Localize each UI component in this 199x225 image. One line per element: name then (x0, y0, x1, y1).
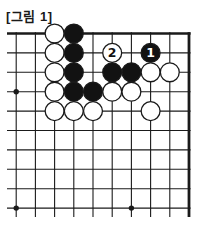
star-point (129, 205, 134, 210)
stone-white (45, 43, 64, 62)
go-figure-page: [그림 1] 21 (0, 0, 199, 225)
stone-white (84, 102, 103, 121)
stone-white (141, 102, 160, 121)
move-number-1: 1 (146, 45, 155, 60)
star-point (14, 205, 19, 210)
stone-white (45, 24, 64, 43)
stone-white (64, 102, 83, 121)
stone-black (122, 63, 141, 82)
stone-white (103, 82, 122, 101)
stone-black (84, 82, 103, 101)
stone-black (64, 43, 83, 62)
go-board: 21 (0, 0, 199, 225)
stone-black (64, 63, 83, 82)
stone-white (45, 82, 64, 101)
star-point (14, 89, 19, 94)
stone-black (103, 63, 122, 82)
stone-white (45, 102, 64, 121)
stone-white (141, 63, 160, 82)
stone-black (64, 24, 83, 43)
stone-white (160, 63, 179, 82)
stone-white (45, 63, 64, 82)
move-number-2: 2 (108, 45, 117, 60)
stone-white (122, 82, 141, 101)
stone-black (64, 82, 83, 101)
